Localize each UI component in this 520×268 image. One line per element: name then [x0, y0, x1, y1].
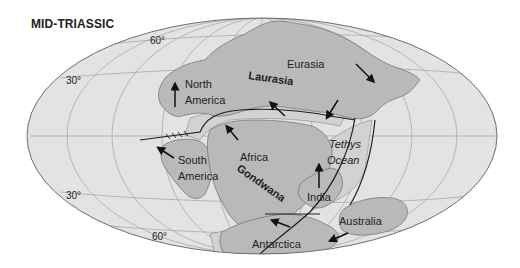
- lat-label-60s: 60°: [152, 231, 167, 242]
- lat-label-30n: 30°: [66, 75, 81, 86]
- label-antarctica: Antarctica: [252, 238, 302, 250]
- map-title: MID-TRIASSIC: [31, 17, 114, 31]
- label-south-america-2: America: [178, 170, 219, 182]
- label-tethys-2: Ocean: [327, 154, 359, 166]
- lat-label-60n: 60°: [150, 35, 165, 46]
- label-north-america-1: North: [185, 78, 212, 90]
- label-south-america-1: South: [178, 154, 207, 166]
- paleogeographic-map: 60° 30° 30° 60° Eurasia Laurasia North A…: [0, 0, 520, 268]
- label-india: India: [307, 191, 332, 203]
- label-eurasia: Eurasia: [287, 58, 325, 70]
- label-tethys-1: Tethys: [329, 138, 362, 150]
- label-north-america-2: America: [185, 94, 226, 106]
- lat-label-30s: 30°: [66, 190, 81, 201]
- label-africa: Africa: [240, 151, 269, 163]
- label-australia: Australia: [339, 215, 383, 227]
